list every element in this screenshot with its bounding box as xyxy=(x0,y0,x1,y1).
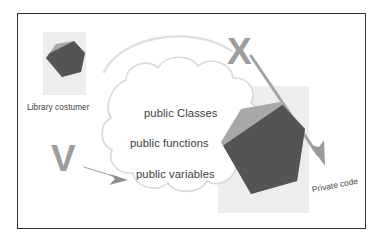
cloud-item-public-functions: public functions xyxy=(130,137,209,149)
forbidden-x-marker: X xyxy=(227,33,252,70)
diagram-artwork xyxy=(18,14,366,229)
allowed-v-marker: V xyxy=(51,140,76,177)
diagram-frame: X V Library costumer public Classes publ… xyxy=(17,13,366,229)
library-consumer-label: Library costumer xyxy=(27,104,90,112)
screenshot-root: X V Library costumer public Classes publ… xyxy=(0,0,387,241)
cloud-item-public-variables: public variables xyxy=(136,168,215,180)
consumer-hexagon-icon xyxy=(38,34,108,89)
cloud-item-public-classes: public Classes xyxy=(144,107,218,119)
